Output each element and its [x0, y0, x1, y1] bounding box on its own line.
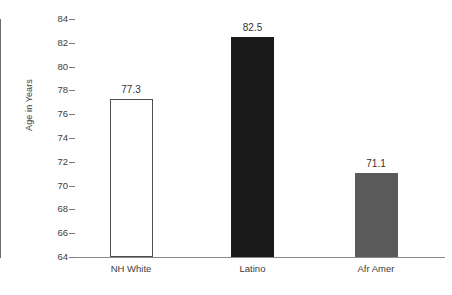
bar-value-label: 71.1 [346, 159, 406, 169]
bar-value-label: 82.5 [223, 23, 283, 33]
y-tick-label: 64 [34, 252, 68, 262]
y-tick-mark [69, 186, 75, 187]
y-tick-label: 82 [34, 38, 68, 48]
x-axis-line [74, 257, 445, 258]
y-tick-mark [69, 209, 75, 210]
y-tick-label: 72 [34, 157, 68, 167]
y-tick-mark [69, 138, 75, 139]
y-tick-mark [69, 67, 75, 68]
y-axis-line [0, 19, 1, 258]
y-tick-mark [69, 257, 75, 258]
x-category-label: NH White [76, 263, 186, 274]
y-tick-label: 66 [34, 228, 68, 238]
y-tick-label: 70 [34, 181, 68, 191]
y-tick-mark [69, 90, 75, 91]
bar-nh-white [110, 99, 153, 257]
y-tick-label: 84 [34, 14, 68, 24]
y-tick-mark [69, 19, 75, 20]
y-tick-mark [69, 162, 75, 163]
y-tick-label: 76 [34, 109, 68, 119]
y-tick-label: 74 [34, 133, 68, 143]
y-axis-title: Age in Years [24, 45, 34, 165]
bar-value-label: 77.3 [101, 85, 161, 95]
y-tick-mark [69, 233, 75, 234]
x-category-label: Afr Amer [321, 263, 431, 274]
bar-chart: Age in Years 6466687072747678808284 77.3… [0, 0, 452, 295]
y-tick-label: 80 [34, 62, 68, 72]
y-tick-label: 68 [34, 204, 68, 214]
x-category-label: Latino [198, 263, 308, 274]
y-tick-mark [69, 114, 75, 115]
bar-latino [231, 37, 274, 257]
y-tick-mark [69, 43, 75, 44]
y-tick-label: 78 [34, 85, 68, 95]
bar-afr-amer [355, 173, 398, 257]
